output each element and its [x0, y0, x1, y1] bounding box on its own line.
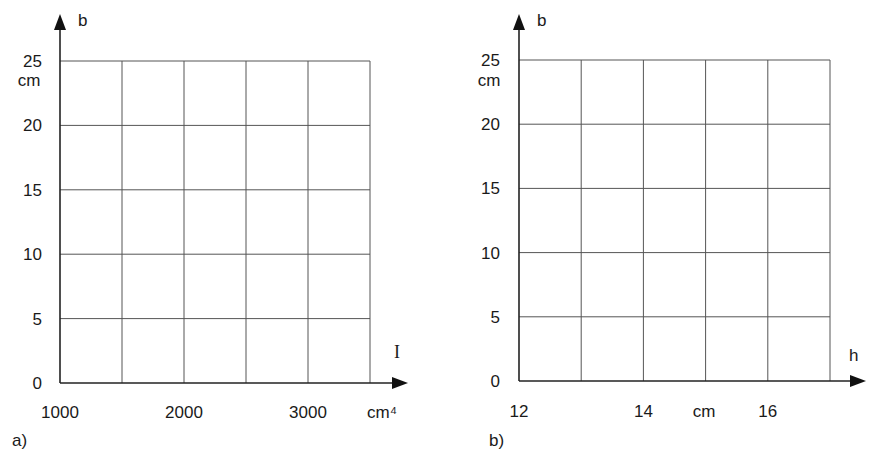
y-tick-label: 10: [481, 244, 500, 263]
y-axis-arrow-icon: [54, 14, 66, 30]
x-tick-label: 1000: [41, 403, 79, 422]
panel-label: b): [489, 431, 504, 450]
y-axis-arrow-icon: [513, 14, 525, 30]
chart-panel-a: 0510152025100020003000bcmIcm⁴a): [12, 11, 408, 450]
y-tick-label: 10: [23, 245, 42, 264]
x-tick-label: 2000: [165, 403, 203, 422]
x-tick-label: 3000: [289, 403, 327, 422]
y-tick-label: 5: [491, 308, 500, 327]
y-tick-label: 20: [23, 116, 42, 135]
figure: 0510152025100020003000bcmIcm⁴a) 05101520…: [0, 0, 873, 470]
y-tick-label: 5: [33, 310, 42, 329]
x-axis-label: h: [849, 346, 858, 365]
y-tick-label: 25: [23, 52, 42, 71]
x-axis-unit: cm⁴: [367, 403, 397, 422]
x-axis-unit: cm: [693, 402, 716, 421]
y-tick-label: 15: [23, 181, 42, 200]
chart-panel-b: 0510152025121416bcmhcmb): [478, 11, 866, 450]
x-tick-label: 14: [634, 402, 653, 421]
panel-label: a): [12, 431, 27, 450]
y-axis-label: b: [78, 11, 87, 30]
y-axis-unit: cm: [18, 71, 41, 90]
y-axis-label: b: [537, 11, 546, 30]
x-tick-label: 12: [510, 402, 529, 421]
x-axis-arrow-icon: [850, 375, 866, 387]
y-tick-label: 20: [481, 115, 500, 134]
x-tick-label: 16: [758, 402, 777, 421]
y-axis-unit: cm: [478, 71, 501, 90]
y-tick-label: 0: [491, 372, 500, 391]
y-tick-label: 0: [33, 374, 42, 393]
y-tick-label: 25: [481, 51, 500, 70]
x-axis-label: I: [394, 342, 400, 362]
x-axis-arrow-icon: [392, 377, 408, 389]
y-tick-label: 15: [481, 179, 500, 198]
